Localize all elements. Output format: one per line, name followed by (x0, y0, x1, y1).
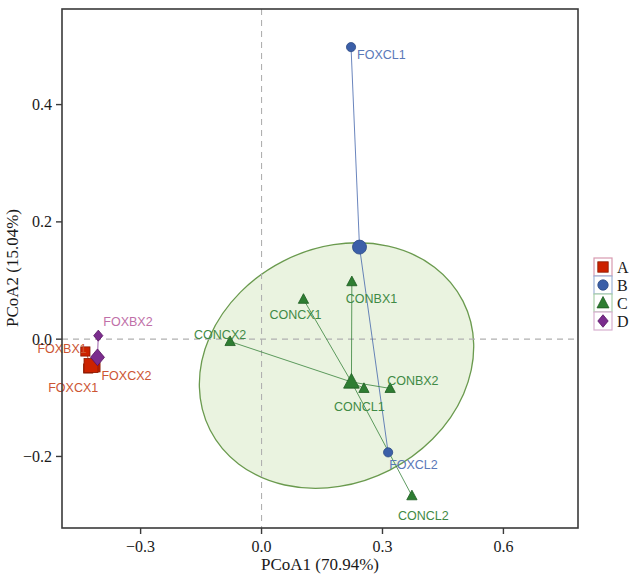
data-point-foxcl2 (384, 448, 393, 457)
legend-marker-square-a (598, 262, 608, 272)
point-label-concl2: CONCL2 (398, 509, 449, 523)
centroid-marker-group-b (353, 240, 367, 254)
x-axis-tick-label: −0.3 (126, 538, 155, 555)
point-label-concl1: CONCL1 (334, 400, 385, 414)
point-label-foxcl1: FOXCL1 (357, 48, 406, 62)
legend: ABCD (594, 258, 629, 330)
legend-label-d: D (617, 313, 629, 330)
x-axis-tick-label: 0.6 (493, 538, 513, 555)
x-axis-title: PCoA1 (70.94%) (261, 555, 379, 574)
legend-label-a: A (617, 259, 629, 276)
legend-label-b: B (617, 277, 628, 294)
x-axis-tick-label: 0.0 (252, 538, 272, 555)
data-point-foxcl1 (346, 43, 355, 52)
point-label-foxbx2: FOXBX2 (103, 315, 152, 329)
point-label-foxcx2: FOXCX2 (101, 369, 151, 383)
x-axis-tick-label: 0.3 (372, 538, 392, 555)
point-label-concx1: CONCX1 (269, 308, 321, 322)
y-axis-tick-label: 0.0 (32, 331, 52, 348)
point-label-conbx2: CONBX2 (387, 374, 438, 388)
point-label-foxcl2: FOXCL2 (389, 458, 438, 472)
y-axis-tick-label: 0.4 (32, 96, 52, 113)
point-label-concx2: CONCX2 (194, 328, 246, 342)
y-axis-tick-label: 0.2 (32, 213, 52, 230)
pcoa-plot-svg: FOXBX1FOXCX1FOXCX2FOXCL1FOXCL2CONCX1CONC… (0, 0, 635, 578)
pcoa-figure: FOXBX1FOXCX1FOXCX2FOXCL1FOXCL2CONCX1CONC… (0, 0, 635, 578)
y-axis-title: PCoA2 (15.04%) (3, 209, 22, 327)
legend-label-c: C (617, 295, 628, 312)
y-axis-tick-label: −0.2 (23, 448, 52, 465)
point-label-conbx1: CONBX1 (346, 292, 397, 306)
point-label-foxcx1: FOXCX1 (48, 381, 98, 395)
legend-marker-circle-b (598, 280, 608, 290)
